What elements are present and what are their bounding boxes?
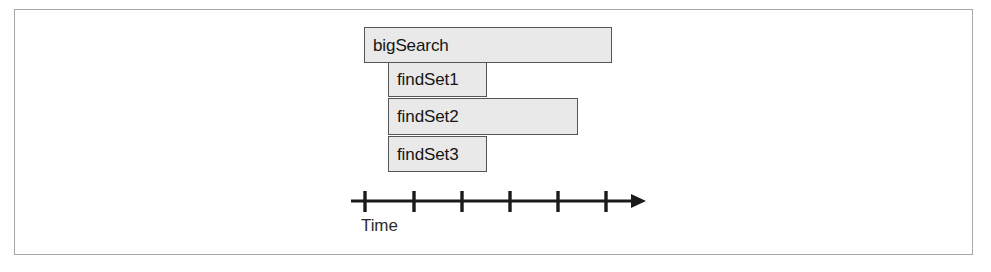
bar-findset1: findSet1 [388,62,487,97]
bar-findset2: findSet2 [388,98,578,135]
bar-label-findset2: findSet2 [389,108,459,125]
bar-label-findset3: findSet3 [389,146,459,163]
bar-bigsearch: bigSearch [364,27,612,63]
bar-label-findset1: findSet1 [389,71,459,88]
bar-findset3: findSet3 [388,136,487,172]
time-axis [350,186,650,216]
axis-arrowhead-icon [631,194,646,208]
bar-label-bigsearch: bigSearch [365,37,449,54]
timing-diagram-figure: bigSearch findSet1 findSet2 findSet3 Tim… [0,0,991,272]
axis-caption-time: Time [361,217,398,234]
chart-area: bigSearch findSet1 findSet2 findSet3 Tim… [0,0,991,272]
